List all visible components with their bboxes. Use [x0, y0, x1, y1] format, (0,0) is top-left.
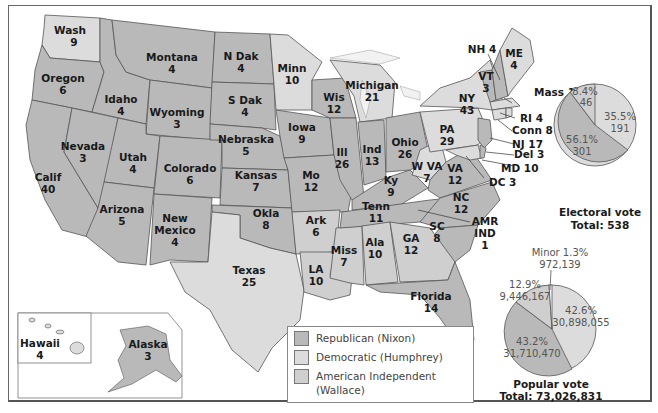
legend-label: American Independent(Wallace) — [316, 369, 436, 397]
legend: Republican (Nixon) Democratic (Humphrey)… — [287, 326, 474, 403]
svg-text:43.2%: 43.2% — [516, 336, 548, 347]
svg-text:42.6%: 42.6% — [565, 305, 597, 316]
svg-text:31,710,470: 31,710,470 — [503, 348, 560, 359]
svg-text:VA12: VA12 — [447, 162, 463, 186]
svg-text:NH 4: NH 4 — [468, 43, 497, 55]
state-nj[interactable] — [478, 118, 492, 148]
svg-text:Popular vote: Popular vote — [513, 378, 589, 390]
svg-text:GA12: GA12 — [403, 232, 421, 256]
svg-text:Conn 8: Conn 8 — [512, 124, 553, 136]
svg-text:972,139: 972,139 — [539, 259, 580, 270]
swatch-republican — [294, 331, 309, 346]
svg-text:PA29: PA29 — [440, 123, 456, 147]
svg-text:191: 191 — [610, 123, 629, 134]
legend-label: Democratic (Humphrey) — [316, 350, 443, 364]
legend-item-american-independent: American Independent(Wallace) — [294, 369, 467, 397]
svg-text:12.9%: 12.9% — [509, 279, 541, 290]
svg-text:35.5%: 35.5% — [604, 111, 636, 122]
svg-text:Mo12: Mo12 — [302, 169, 320, 193]
svg-text:RI 4: RI 4 — [520, 112, 543, 124]
svg-text:Minor 1.3%: Minor 1.3% — [532, 247, 589, 258]
legend-item-democratic: Democratic (Humphrey) — [294, 350, 467, 365]
svg-text:30,898,055: 30,898,055 — [552, 317, 609, 328]
swatch-democratic — [294, 350, 309, 365]
inset-alaska-hawaii: Hawaii4 Alaska3 — [18, 313, 182, 398]
svg-text:Ill26: Ill26 — [335, 146, 350, 170]
svg-text:NC12: NC12 — [453, 191, 470, 215]
svg-text:DC 3: DC 3 — [489, 176, 516, 188]
svg-text:MD 10: MD 10 — [501, 162, 538, 174]
svg-text:301: 301 — [572, 146, 591, 157]
svg-text:9,446,167: 9,446,167 — [500, 291, 551, 302]
svg-text:Ala10: Ala10 — [366, 236, 385, 260]
svg-text:Del 3: Del 3 — [514, 148, 544, 160]
svg-text:8.4%: 8.4% — [572, 86, 597, 97]
svg-text:Total: 73,026,831: Total: 73,026,831 — [500, 390, 603, 402]
svg-text:NY43: NY43 — [459, 92, 476, 116]
svg-text:AMRIND1: AMRIND1 — [472, 215, 499, 251]
svg-text:Ind13: Ind13 — [363, 143, 382, 167]
svg-text:Electoral vote: Electoral vote — [559, 206, 641, 218]
svg-text:LA10: LA10 — [309, 263, 325, 287]
legend-item-republican: Republican (Nixon) — [294, 331, 467, 346]
electoral-vote-pie: 8.4% 46 35.5% 191 56.1% 301 Electoral vo… — [554, 84, 641, 231]
popular-vote-pie: Minor 1.3% 972,139 12.9% 9,446,167 42.6%… — [500, 247, 610, 402]
svg-text:Total: 538: Total: 538 — [571, 219, 629, 231]
svg-text:46: 46 — [580, 97, 593, 108]
legend-label: Republican (Nixon) — [316, 331, 415, 345]
swatch-american-independent — [294, 369, 309, 384]
svg-text:56.1%: 56.1% — [566, 134, 598, 145]
